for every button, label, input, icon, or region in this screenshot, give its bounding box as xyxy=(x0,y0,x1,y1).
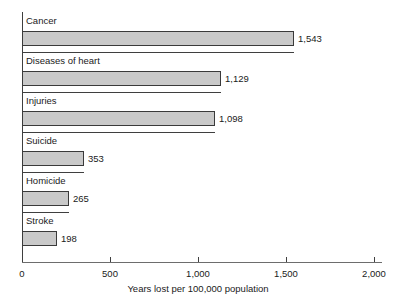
category-separator xyxy=(22,212,69,213)
bar xyxy=(22,71,221,86)
bar xyxy=(22,31,294,46)
bar-value-label: 353 xyxy=(88,153,104,164)
x-axis-tick-label: 0 xyxy=(19,268,24,279)
bar-value-label: 1,129 xyxy=(225,73,249,84)
bar xyxy=(22,231,57,246)
bar-category-label: Cancer xyxy=(26,15,57,26)
x-axis-tick xyxy=(286,257,287,262)
bar xyxy=(22,151,84,166)
category-separator xyxy=(22,52,294,53)
bar-category-label: Diseases of heart xyxy=(26,55,100,66)
x-axis-tick xyxy=(198,257,199,262)
bar-value-label: 265 xyxy=(73,193,89,204)
bar xyxy=(22,111,215,126)
bar-category-label: Homicide xyxy=(26,175,66,186)
category-separator xyxy=(22,92,221,93)
x-axis-tick xyxy=(110,257,111,262)
x-axis-tick-label: 1,500 xyxy=(274,268,298,279)
x-axis-title: Years lost per 100,000 population xyxy=(127,283,268,294)
bar-value-label: 1,543 xyxy=(298,33,322,44)
x-axis-tick-label: 1,000 xyxy=(186,268,210,279)
x-axis-tick-label: 500 xyxy=(102,268,118,279)
horizontal-bar-chart: Cancer1,543Diseases of heart1,129Injurie… xyxy=(0,0,408,304)
x-axis-tick-label: 2,000 xyxy=(362,268,386,279)
bar-value-label: 198 xyxy=(61,233,77,244)
bar xyxy=(22,191,69,206)
x-axis-tick xyxy=(374,257,375,262)
category-separator xyxy=(22,172,84,173)
bar-category-label: Suicide xyxy=(26,135,57,146)
category-separator xyxy=(22,132,215,133)
y-axis-line xyxy=(22,12,23,262)
bar-value-label: 1,098 xyxy=(219,113,243,124)
bar-category-label: Stroke xyxy=(26,215,53,226)
x-axis-line xyxy=(22,262,382,263)
bar-category-label: Injuries xyxy=(26,95,57,106)
